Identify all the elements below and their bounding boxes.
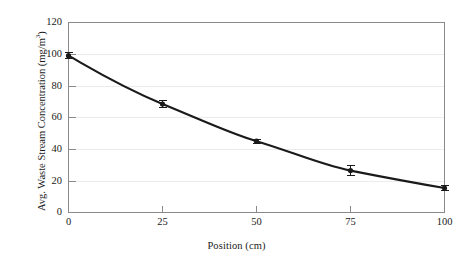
data-point-markers [66, 53, 447, 190]
y-axis-title-suffix: ) [36, 31, 47, 35]
error-bars [65, 53, 449, 191]
x-axis-title: Position (cm) [0, 240, 473, 251]
x-tick-label-25: 25 [146, 216, 180, 227]
x-axis-ticks [69, 206, 445, 213]
data-point [442, 185, 447, 190]
x-tick-label-0: 0 [52, 216, 86, 227]
data-point [348, 168, 353, 173]
y-axis-title: Avg. Waste Stream Concentration (mg/m3) [34, 31, 47, 211]
x-tick-label-100: 100 [428, 216, 462, 227]
gridlines [69, 54, 445, 181]
y-axis-title-text: Avg. Waste Stream Concentration (mg/m [36, 38, 47, 211]
data-point [66, 53, 71, 58]
x-tick-label-50: 50 [240, 216, 274, 227]
y-axis-title-superscript: 3 [34, 35, 42, 39]
data-series-line [69, 56, 445, 188]
data-point [254, 139, 259, 144]
y-axis-title-wrap: Avg. Waste Stream Concentration (mg/m3) [0, 0, 40, 220]
chart-figure: 120 100 80 60 40 20 0 0 25 50 75 100 Avg… [0, 0, 473, 261]
x-tick-label-75: 75 [334, 216, 368, 227]
y-axis-ticks [69, 23, 76, 213]
data-point [160, 101, 165, 106]
